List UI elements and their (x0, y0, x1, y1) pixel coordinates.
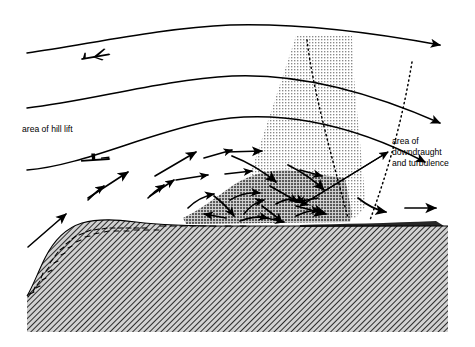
label-hill-lift: area of hill lift (22, 124, 73, 134)
label-downdraught-line1: area of (392, 136, 419, 146)
curved-lift-1 (88, 186, 104, 200)
streamline-1 (27, 25, 440, 53)
airflow-over-hill-diagram: area of hill lift area of downdraught an… (0, 0, 475, 347)
curved-lift-2 (148, 185, 164, 198)
glider-upper (80, 48, 111, 63)
lift-arrow-4 (155, 152, 196, 176)
windward-curved-arrows (88, 185, 164, 200)
streamline-2 (27, 76, 440, 123)
turbulence-core-region (183, 170, 352, 224)
lift-arrow-8 (226, 151, 262, 152)
streamline-3 (27, 117, 425, 170)
lift-arrow-7 (225, 171, 252, 174)
diagram-canvas: area of hill lift area of downdraught an… (0, 0, 475, 347)
downwind-arrows (358, 198, 436, 212)
lift-arrow-5 (176, 175, 208, 180)
label-downdraught-line2: downdraught (392, 147, 442, 157)
hill-terrain (27, 220, 448, 332)
label-downdraught-line3: and turbulence (392, 158, 449, 168)
streamlines-group (27, 25, 440, 170)
